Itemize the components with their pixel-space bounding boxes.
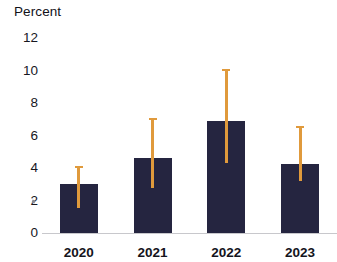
error-bar-cap [222,69,230,71]
y-tick-label: 6 [8,129,38,143]
y-axis-title: Percent [14,4,61,19]
x-tick-label: 2022 [196,246,256,260]
bar-chart: Percent 024681012 2020202120222023 [0,0,337,262]
error-bar-cap [149,118,157,120]
error-bar [225,69,228,163]
x-tick-label: 2020 [49,246,109,260]
y-tick-label: 10 [8,64,38,78]
x-tick-label: 2023 [270,246,330,260]
x-axis-baseline [42,233,337,234]
error-bar [299,126,302,181]
y-tick-label: 4 [8,161,38,175]
y-tick-label: 12 [8,31,38,45]
error-bar [77,166,80,207]
error-bar-cap [75,166,83,168]
y-tick-label: 0 [8,226,38,240]
y-tick-label: 8 [8,96,38,110]
x-tick-label: 2021 [123,246,183,260]
error-bar-cap [296,126,304,128]
error-bar [151,118,154,188]
